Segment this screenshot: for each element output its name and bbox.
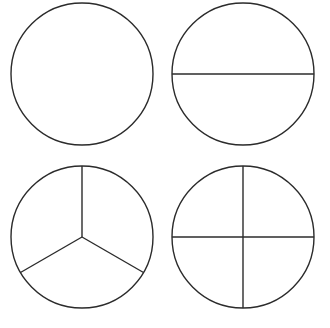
- circle-halves-group: [172, 3, 314, 145]
- circle-thirds-group: [11, 166, 153, 308]
- circle-quarters-group: [172, 166, 314, 308]
- fraction-circles-figure: [0, 0, 330, 328]
- circle-whole-group: [11, 3, 153, 145]
- circle-whole-outline: [11, 3, 153, 145]
- fraction-circles-canvas: [0, 0, 330, 328]
